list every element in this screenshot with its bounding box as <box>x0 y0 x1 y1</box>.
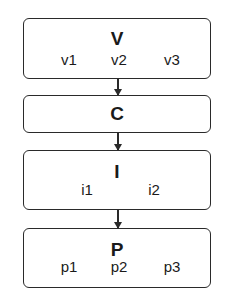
box-i-item-1: i1 <box>81 182 93 197</box>
box-p-title: P <box>24 240 210 259</box>
box-v-item-1: v1 <box>61 52 77 67</box>
box-v: V v1 v2 v3 <box>23 18 211 79</box>
box-p-item-1: p1 <box>61 259 78 274</box>
box-c: C <box>23 95 211 133</box>
box-p-item-2: p2 <box>111 259 128 274</box>
box-p-item-3: p3 <box>164 259 181 274</box>
box-p: P p1 p2 p3 <box>23 228 211 288</box>
box-v-item-2: v2 <box>111 52 127 67</box>
box-i-item-2: i2 <box>148 182 160 197</box>
box-i-title: I <box>24 162 210 181</box>
box-v-item-3: v3 <box>164 52 180 67</box>
arrow-i-to-p <box>117 210 119 228</box>
arrow-c-to-i <box>117 133 119 150</box>
arrow-v-to-c <box>117 79 119 95</box>
box-c-title: C <box>24 104 210 123</box>
box-i: I i1 i2 <box>23 150 211 210</box>
box-v-title: V <box>24 29 210 48</box>
